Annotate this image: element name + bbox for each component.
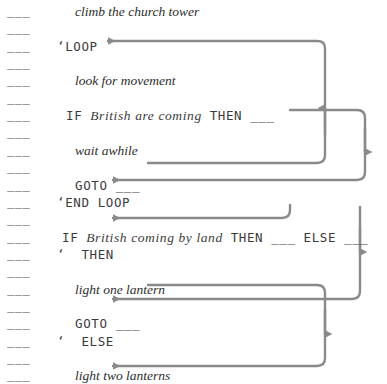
if-keyword: ELSE: [304, 230, 337, 245]
line-number-dashes: ___: [7, 177, 47, 194]
listing-if-statement: IF British are coming THEN ___: [66, 107, 275, 124]
listing-if-statement: IF British coming by land THEN ___ ELSE …: [62, 229, 368, 246]
line-number-dashes: ___: [7, 281, 47, 298]
listing-row: ___: [0, 211, 387, 228]
line-number-dashes: ___: [7, 142, 47, 159]
if-condition-text: [336, 230, 344, 245]
listing-row: ___‘END LOOP: [0, 194, 387, 211]
listing-row: ___: [0, 159, 387, 176]
listing-row: ___: [0, 55, 387, 72]
listing-row: ___climb the church tower: [0, 3, 387, 20]
listing-row: ___GOTO ___: [0, 315, 387, 332]
line-number-dashes: ___: [7, 333, 47, 350]
if-condition-text: [296, 230, 304, 245]
line-number-dashes: ___: [7, 211, 47, 228]
if-keyword: THEN: [210, 108, 243, 123]
listing-keyword-text: ‘LOOP: [57, 38, 98, 55]
listing-row: ___light two lanterns: [0, 367, 387, 384]
listing-row: ___: [0, 298, 387, 315]
if-condition-text: British are coming: [82, 108, 209, 123]
listing-row: ___: [0, 90, 387, 107]
listing-row: ___‘ ELSE: [0, 333, 387, 350]
if-keyword: ___: [344, 230, 368, 245]
listing-row: ___‘LOOP: [0, 38, 387, 55]
if-keyword: ___: [271, 230, 295, 245]
listing-row: ___GOTO ___: [0, 177, 387, 194]
listing-keyword-text: ‘ THEN: [57, 246, 114, 263]
if-condition-text: [263, 230, 271, 245]
line-number-dashes: ___: [7, 38, 47, 55]
line-number-dashes: ___: [7, 298, 47, 315]
listing-keyword-text: ‘END LOOP: [57, 194, 130, 211]
listing-keyword-text: ‘ ELSE: [57, 333, 114, 350]
line-number-dashes: ___: [7, 350, 47, 367]
listing-row: ___light one lantern: [0, 281, 387, 298]
line-number-dashes: ___: [7, 107, 47, 124]
if-keyword: ___: [250, 108, 274, 123]
line-number-dashes: ___: [7, 315, 47, 332]
line-number-dashes: ___: [7, 55, 47, 72]
listing-row: ___: [0, 20, 387, 37]
listing-prose-text: light one lantern: [75, 281, 165, 298]
line-number-dashes: ___: [7, 229, 47, 246]
line-number-dashes: ___: [7, 72, 47, 89]
listing-row: ___wait awhile: [0, 142, 387, 159]
line-number-dashes: ___: [7, 367, 47, 384]
listing-prose-text: light two lanterns: [75, 367, 170, 384]
listing-row: ___: [0, 124, 387, 141]
if-condition-text: [242, 108, 250, 123]
listing-row: ___look for movement: [0, 72, 387, 89]
listing-row: ___: [0, 350, 387, 367]
line-number-dashes: ___: [7, 263, 47, 280]
listing-prose-text: climb the church tower: [75, 3, 199, 20]
if-condition-text: British coming by land: [78, 230, 230, 245]
line-number-dashes: ___: [7, 159, 47, 176]
line-number-dashes: ___: [7, 3, 47, 20]
listing-row: ___‘ THEN: [0, 246, 387, 263]
listing-keyword-text: GOTO ___: [75, 177, 140, 194]
line-number-dashes: ___: [7, 194, 47, 211]
listing-prose-text: look for movement: [75, 72, 175, 89]
listing-row: ___: [0, 263, 387, 280]
listing-prose-text: wait awhile: [75, 142, 138, 159]
listing-keyword-text: GOTO ___: [75, 315, 140, 332]
listing-row: ___IF British are coming THEN ___: [0, 107, 387, 124]
if-keyword: IF: [62, 230, 78, 245]
if-keyword: THEN: [231, 230, 264, 245]
if-keyword: IF: [66, 108, 82, 123]
line-number-dashes: ___: [7, 20, 47, 37]
line-number-dashes: ___: [7, 90, 47, 107]
line-number-dashes: ___: [7, 124, 47, 141]
line-number-dashes: ___: [7, 246, 47, 263]
listing-row: ___IF British coming by land THEN ___ EL…: [0, 229, 387, 246]
pseudocode-flow-figure: ___climb the church tower______‘LOOP____…: [0, 0, 387, 384]
